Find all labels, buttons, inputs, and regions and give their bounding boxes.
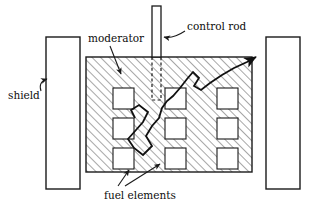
fuel-element [217,148,238,169]
fuel-element [217,88,238,109]
diagram-canvas: shield moderator control rod fuel elemen… [0,0,309,208]
fuel-elements-label: fuel elements [104,189,176,201]
fuel-element [113,148,134,169]
shield-right [266,37,300,189]
control-rod-leader-line [164,31,185,37]
fuel-element-grid [113,88,238,169]
fuel-element [165,118,186,139]
fuel-element [165,148,186,169]
shield-label: shield [8,89,40,101]
reactor-diagram: shield moderator control rod fuel elemen… [0,0,309,208]
control-rod [152,6,161,57]
fuel-element [113,88,134,109]
moderator-label: moderator [88,32,145,44]
fuel-element [165,88,186,109]
shield-left [46,37,80,189]
fuel-element [217,118,238,139]
control-rod-label: control rod [187,20,247,32]
